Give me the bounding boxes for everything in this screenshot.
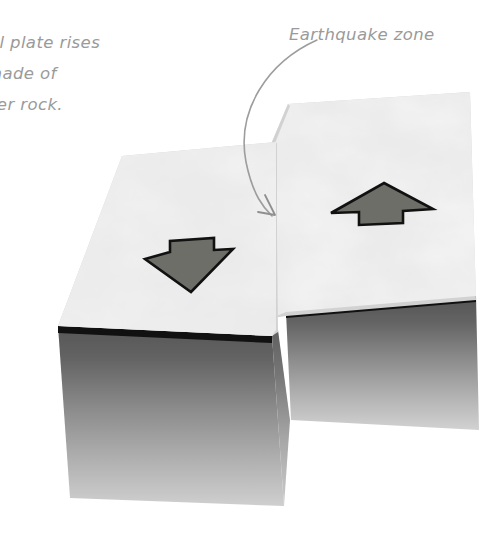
right-block — [260, 85, 490, 430]
left-caption-line-3: ter rock. — [0, 95, 63, 114]
fault-block-diagram: tal plate rises made of ter rock. Earthq… — [0, 0, 494, 536]
left-caption-line-2: made of — [0, 64, 59, 83]
left-caption-line-1: tal plate rises — [0, 33, 100, 52]
right-block-front-face — [286, 296, 479, 430]
left-block-front-face — [58, 326, 284, 506]
earthquake-zone-label: Earthquake zone — [289, 25, 435, 44]
